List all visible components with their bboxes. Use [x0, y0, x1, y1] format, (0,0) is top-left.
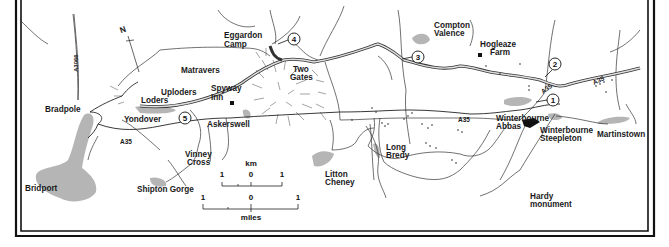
label-matravers: Matravers — [181, 66, 220, 75]
north-label: N — [119, 25, 128, 36]
label-spyway: Spyway — [211, 84, 242, 93]
label-uploders: Uploders — [161, 88, 197, 97]
bradpole-road — [90, 82, 138, 112]
scale-miles-tick-left: 1 — [201, 193, 206, 202]
label-loders: Loders — [141, 96, 169, 105]
svg-text:1: 1 — [551, 96, 556, 105]
scale-km-tick-right: 1 — [280, 170, 285, 179]
label-farm: Farm — [490, 48, 510, 57]
route-map: A3066 N 1 2 3 — [0, 0, 669, 247]
a35-label-west: A35 — [120, 138, 132, 145]
a3066-label: A3066 — [73, 54, 79, 72]
label-cross: Cross — [187, 158, 211, 167]
north-arrow: N — [119, 25, 139, 72]
label-bridport: Bridport — [25, 184, 58, 193]
label-yondover: Yondover — [124, 115, 162, 124]
label-eggardon: Eggardon — [224, 31, 262, 40]
scale-miles-label: miles — [241, 213, 262, 222]
a35-label-center: A35 — [458, 116, 470, 123]
label-gates: Gates — [290, 73, 313, 82]
label-monument: monument — [530, 200, 572, 209]
label-martinstown: Martinstown — [597, 130, 645, 139]
svg-text:4: 4 — [292, 35, 297, 44]
hogleaze-farm-marker — [478, 53, 482, 57]
svg-text:2: 2 — [553, 60, 558, 69]
label-abbas: Abbas — [496, 122, 521, 131]
label-shipton-gorge: Shipton Gorge — [137, 185, 194, 194]
winterbourne-abbas-area — [504, 97, 532, 106]
scale-km-label: km — [245, 159, 257, 168]
martinstown-area — [598, 117, 630, 124]
label-steepleton: Steepleton — [540, 134, 582, 143]
scale-km-tick-left: 1 — [220, 170, 225, 179]
svg-text:3: 3 — [416, 53, 421, 62]
label-bredy: Bredy — [386, 151, 410, 160]
label-askerswell: Askerswell — [207, 120, 250, 129]
label-camp: Camp — [224, 40, 247, 49]
label-inn: Inn — [211, 93, 223, 102]
label-bradpole: Bradpole — [45, 105, 81, 114]
litton-cheney-area — [312, 151, 334, 166]
label-cheney: Cheney — [325, 178, 355, 187]
svg-text:5: 5 — [183, 114, 188, 123]
scale-miles-tick-zero: 0 — [249, 193, 254, 202]
scale-km-tick-zero: 0 — [249, 170, 254, 179]
label-valence: Valence — [434, 29, 465, 38]
compton-valence-area — [412, 34, 430, 45]
scale-bar: km 1 0 1 1 0 1 miles — [201, 159, 301, 222]
spyway-inn-marker — [230, 101, 234, 105]
scale-miles-tick-right: 1 — [296, 193, 301, 202]
